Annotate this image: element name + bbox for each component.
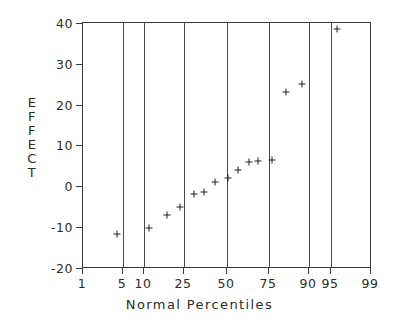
y-axis-tick-label: 0 [65,179,73,194]
y-axis-title-char: F [24,124,40,138]
x-axis-tick [370,268,371,274]
x-axis-tick-label: 10 [135,276,152,291]
data-point [334,26,341,33]
gridline-vertical [269,23,270,267]
y-axis-title-char: F [24,110,40,124]
x-axis-tick-label: 1 [78,276,86,291]
x-axis-tick-label: 99 [362,276,379,291]
x-axis-tick [330,268,331,274]
data-point [201,189,208,196]
x-axis-tick-label: 95 [322,276,339,291]
y-axis-title: EFFECT [24,96,40,180]
data-point [164,212,171,219]
x-axis-tick-label: 90 [300,276,317,291]
y-axis-tick [76,186,82,187]
y-axis-tick-label: 10 [56,138,73,153]
data-point [269,157,276,164]
data-point [114,231,121,238]
x-axis-tick [82,268,83,274]
y-axis-tick-label: 30 [56,57,73,72]
y-axis-tick [76,227,82,228]
data-point [225,175,232,182]
y-axis-tick-label: 20 [56,98,73,113]
plot-frame [82,22,371,268]
data-point [235,167,242,174]
y-axis-tick-label: -20 [51,261,73,276]
data-point [299,81,306,88]
data-point [146,225,153,232]
y-axis-tick [76,64,82,65]
y-axis-tick [76,145,82,146]
x-axis-title: Normal Percentiles [0,297,399,312]
gridline-vertical [331,23,332,267]
y-axis-tick [76,23,82,24]
x-axis-tick [308,268,309,274]
data-point [283,89,290,96]
x-axis-tick [143,268,144,274]
gridline-vertical [227,23,228,267]
data-point [246,159,253,166]
y-axis-title-char: E [24,96,40,110]
x-axis-tick [268,268,269,274]
y-axis-title-char: T [24,166,40,180]
data-point [255,158,262,165]
y-axis-title-char: C [24,152,40,166]
plot-area [83,23,370,267]
data-point [191,191,198,198]
x-axis-tick [183,268,184,274]
data-point [212,179,219,186]
gridline-vertical [184,23,185,267]
x-axis-tick [122,268,123,274]
x-axis-tick-label: 50 [218,276,235,291]
x-axis-tick-label: 5 [118,276,126,291]
x-axis-tick-label: 25 [175,276,192,291]
y-axis-tick-label: -10 [51,220,73,235]
y-axis-title-char: E [24,138,40,152]
y-axis-tick [76,105,82,106]
y-axis-tick-label: 40 [56,16,73,31]
x-axis-tick [226,268,227,274]
data-point [177,204,184,211]
x-axis-tick-label: 75 [260,276,277,291]
normal-probability-plot: EFFECT -20-100102030401510255075909599 N… [0,0,399,322]
gridline-vertical [309,23,310,267]
gridline-vertical [123,23,124,267]
